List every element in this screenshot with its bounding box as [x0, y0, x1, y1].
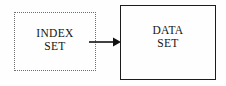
arrow-right-icon — [89, 35, 121, 49]
node-data-set[interactable]: DATA SET — [120, 5, 216, 80]
diagram-canvas: INDEX SET DATA SET — [0, 0, 226, 86]
node-data-set-label-line1: DATA — [153, 24, 184, 36]
node-data-set-label: DATA SET — [121, 24, 215, 50]
node-index-set[interactable]: INDEX SET — [14, 12, 96, 71]
arrow-head — [113, 37, 121, 46]
node-data-set-label-line2: SET — [121, 37, 215, 50]
node-index-set-label-line2: SET — [15, 40, 95, 53]
node-index-set-label: INDEX SET — [15, 27, 95, 53]
node-index-set-label-line1: INDEX — [36, 27, 73, 39]
